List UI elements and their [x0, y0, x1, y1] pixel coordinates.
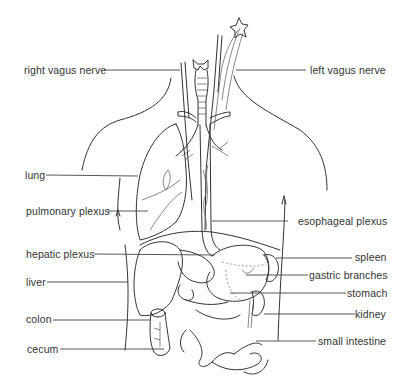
intestines [178, 285, 268, 374]
label-spleen: spleen [355, 251, 387, 263]
lung-shape [136, 124, 186, 240]
star-cut-end [230, 18, 248, 38]
spleen-shape [264, 254, 278, 281]
label-right-vagus-nerve: right vagus nerve [24, 64, 106, 76]
cecum-colon [150, 309, 170, 355]
label-esophageal-plexus: esophageal plexus [298, 215, 387, 227]
label-lung: lung [25, 169, 45, 181]
label-left-vagus-nerve: left vagus nerve [310, 64, 386, 76]
label-colon: colon [26, 313, 52, 325]
label-hepatic-plexus: hepatic plexus [26, 248, 95, 260]
label-stomach: stomach [347, 287, 387, 299]
anatomy-illustration [0, 0, 404, 388]
label-small-intestine: small intestine [318, 335, 386, 347]
leader-lines-right [212, 70, 355, 341]
label-liver: liver [26, 276, 46, 288]
diaphragm [140, 231, 280, 250]
neck-structures [176, 28, 243, 230]
label-pulmonary-plexus: pulmonary plexus [26, 205, 110, 217]
ureter [248, 300, 253, 328]
kidney-shape [252, 291, 264, 316]
label-gastric-branches: gastric branches [309, 269, 388, 281]
label-kidney: kidney [355, 308, 386, 320]
label-cecum: cecum [27, 343, 58, 355]
liver-shape [134, 242, 214, 316]
esophagus [200, 125, 220, 256]
